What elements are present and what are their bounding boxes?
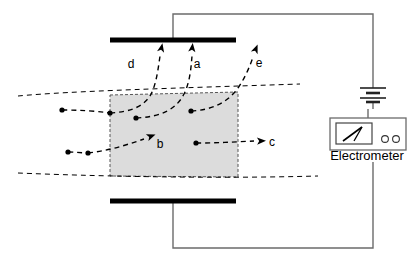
entry-stub-upper [62,110,110,113]
trajectory-a-start-dot [133,115,138,120]
trajectory-e-start-dot [188,108,193,113]
electrometer-label: Electrometer [330,148,404,163]
particle-dot-left-upper [59,107,64,112]
physics-diagram-figure: daebcElectrometer [0,0,416,262]
trajectory-label-a: a [194,57,201,71]
trajectory-label-b: b [157,137,164,151]
trajectory-e-arrowhead [251,43,261,54]
top-circuit-wire [173,14,373,80]
diagram-canvas: daebcElectrometer [0,0,416,262]
particles-group [59,107,110,154]
entry-stub-lower [68,152,88,153]
electrometer-knob-right[interactable] [393,136,400,143]
trajectory-c-arrowhead [257,137,266,145]
trajectory-d-arrowhead [157,42,166,52]
electrometer-group [330,109,406,150]
trajectory-label-c: c [269,135,275,149]
trajectory-c-start-dot [193,140,198,145]
trajectory-a-arrowhead [188,43,196,53]
particle-dot-left-lower [65,149,70,154]
trajectory-label-d: d [128,57,135,71]
trajectory-label-e: e [256,56,263,70]
electrometer-knob-left[interactable] [382,136,389,143]
